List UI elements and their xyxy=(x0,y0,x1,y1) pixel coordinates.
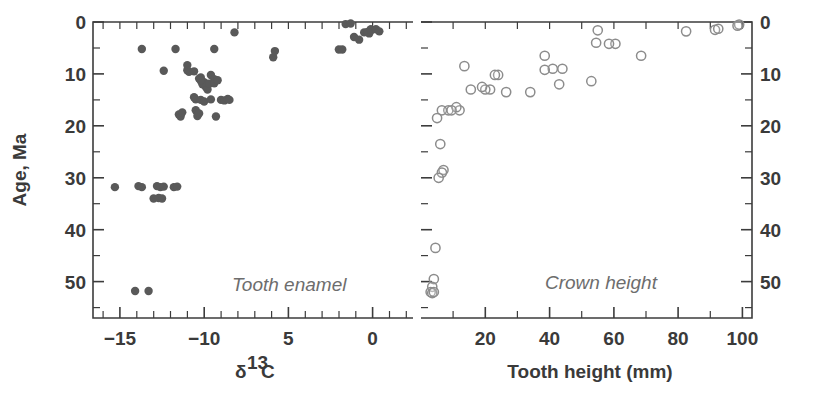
data-point xyxy=(213,76,221,84)
left-x-ticks xyxy=(103,307,406,318)
left-panel-label: Tooth enamel xyxy=(232,274,347,295)
right-x-tick-label-20: 20 xyxy=(475,328,496,349)
data-point xyxy=(131,287,139,295)
data-point xyxy=(587,77,596,86)
data-point xyxy=(490,70,499,79)
data-point xyxy=(230,28,238,36)
data-point xyxy=(271,47,279,55)
data-point xyxy=(375,27,383,35)
right-panel-group: 0 10 20 30 40 50 xyxy=(421,12,781,382)
y-tick-label-0: 0 xyxy=(75,12,86,33)
data-point xyxy=(558,64,567,73)
right-panel-left-edge-ticks xyxy=(421,22,432,308)
data-point xyxy=(158,194,166,202)
carbon-element-label: C xyxy=(261,361,275,382)
right-y-tick-label-30: 30 xyxy=(760,168,781,189)
scatter-figure-svg: 0 10 20 30 40 50 Age, Ma xyxy=(0,0,813,400)
data-point xyxy=(212,112,220,120)
right-y-tick-label-20: 20 xyxy=(760,116,781,137)
data-point xyxy=(190,67,198,75)
left-x-tick-label-0: 0 xyxy=(367,328,378,349)
data-point xyxy=(160,182,168,190)
y-axis-tick-labels: 0 10 20 30 40 50 xyxy=(65,12,86,293)
data-point xyxy=(682,27,691,36)
left-panel-datapoints xyxy=(111,19,384,295)
right-x-axis-title: Tooth height (mm) xyxy=(507,361,672,382)
data-point xyxy=(592,38,601,47)
data-point xyxy=(207,95,215,103)
y-tick-label-40: 40 xyxy=(65,220,86,241)
right-panel-label: Crown height xyxy=(545,272,658,293)
left-x-tick-label-minus15: −15 xyxy=(104,328,137,349)
left-top-ticks xyxy=(103,22,406,29)
left-x-axis-title: δ 13 C xyxy=(235,352,275,382)
right-y-tick-label-10: 10 xyxy=(760,64,781,85)
data-point xyxy=(434,173,443,182)
data-point xyxy=(138,183,146,191)
data-point xyxy=(138,45,146,53)
right-y-axis-tick-labels: 0 10 20 30 40 50 xyxy=(760,12,781,293)
right-x-tick-label-40: 40 xyxy=(539,328,560,349)
data-point xyxy=(171,45,179,53)
figure-container: 0 10 20 30 40 50 Age, Ma xyxy=(0,0,813,400)
data-point xyxy=(637,51,646,60)
y-tick-label-10: 10 xyxy=(65,64,86,85)
delta-symbol: δ xyxy=(235,361,247,382)
data-point xyxy=(540,65,549,74)
data-point xyxy=(436,139,445,148)
data-point xyxy=(477,82,486,91)
data-point xyxy=(460,62,469,71)
data-point xyxy=(526,88,535,97)
y-tick-label-50: 50 xyxy=(65,272,86,293)
right-x-tick-label-100: 100 xyxy=(727,328,759,349)
right-y-tick-label-40: 40 xyxy=(760,220,781,241)
data-point xyxy=(225,96,233,104)
data-point xyxy=(338,45,346,53)
right-x-tick-label-60: 60 xyxy=(603,328,624,349)
data-point xyxy=(604,39,613,48)
right-y-tick-label-50: 50 xyxy=(760,272,781,293)
data-point xyxy=(355,35,363,43)
right-y-tick-label-0: 0 xyxy=(760,12,771,33)
data-point xyxy=(432,113,441,122)
data-point xyxy=(447,106,456,115)
right-y-ticks xyxy=(741,22,752,308)
data-point xyxy=(502,88,511,97)
data-point xyxy=(714,24,723,33)
data-point xyxy=(173,182,181,190)
data-point xyxy=(195,109,203,117)
left-x-tick-label-minus10: −10 xyxy=(188,328,220,349)
data-point xyxy=(346,19,354,27)
right-x-ticks xyxy=(453,307,742,318)
data-point xyxy=(144,287,152,295)
data-point xyxy=(733,21,742,30)
data-point xyxy=(466,85,475,94)
data-point xyxy=(178,108,186,116)
right-x-axis-tick-labels: 20 40 60 80 100 xyxy=(475,328,759,349)
data-point xyxy=(429,287,438,296)
data-point xyxy=(540,51,549,60)
data-point xyxy=(160,67,168,75)
data-point xyxy=(431,243,440,252)
right-panel-datapoints xyxy=(426,20,744,298)
left-x-tick-label-minus5: 5 xyxy=(283,328,294,349)
y-tick-label-30: 30 xyxy=(65,168,86,189)
right-x-tick-label-80: 80 xyxy=(668,328,689,349)
left-panel-group: 0 10 20 30 40 50 Age, Ma xyxy=(9,12,413,382)
y-axis-title: Age, Ma xyxy=(9,133,30,206)
left-x-axis-tick-labels: −15 −10 5 0 xyxy=(104,328,378,349)
y-tick-label-20: 20 xyxy=(65,116,86,137)
data-point xyxy=(210,45,218,53)
left-y-ticks xyxy=(93,22,104,308)
data-point xyxy=(111,183,119,191)
data-point xyxy=(593,26,602,35)
data-point xyxy=(555,80,564,89)
